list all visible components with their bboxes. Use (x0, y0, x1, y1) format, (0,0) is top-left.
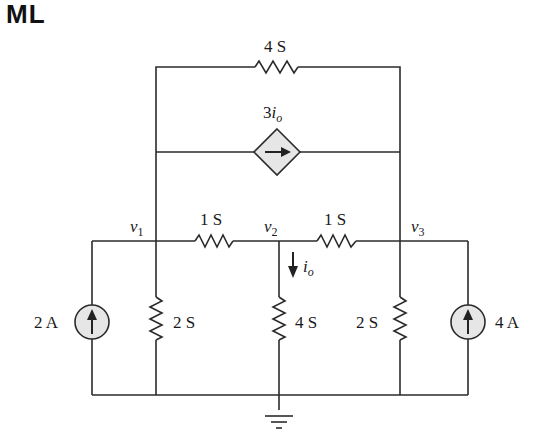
dependent-source-branch (156, 129, 400, 175)
circuit-diagram: 4 S 3io v1 v2 v3 1 S 1 S 2 S 4 S 2 S 2 A… (0, 0, 549, 437)
current-source-2a (75, 241, 109, 395)
arrow-down-icon (288, 266, 298, 278)
resistor-1s-left (195, 235, 233, 247)
shunt-resistor-4s (273, 241, 285, 410)
label-source-2a: 2 A (34, 313, 59, 332)
label-series-resistor-2: 1 S (324, 210, 346, 229)
label-current-io: io (303, 257, 314, 279)
label-node-v3: v3 (411, 217, 425, 239)
label-top-resistor: 4 S (264, 37, 286, 56)
label-source-4a: 4 A (495, 313, 520, 332)
label-dependent-source: 3io (263, 103, 282, 125)
resistor-4s-top (255, 61, 298, 73)
label-shunt-resistor-2: 4 S (295, 313, 317, 332)
shunt-resistor-2s-right (394, 241, 406, 395)
label-node-v2: v2 (264, 217, 278, 239)
ground (92, 395, 468, 428)
resistor-1s-right (317, 235, 356, 247)
current-source-4a (451, 241, 485, 395)
shunt-resistor-2s-left (150, 241, 162, 395)
node-wire (92, 235, 468, 247)
current-io-arrow (288, 252, 298, 278)
label-node-v1: v1 (130, 217, 144, 239)
label-series-resistor-1: 1 S (200, 210, 222, 229)
label-shunt-resistor-1: 2 S (173, 313, 195, 332)
label-shunt-resistor-3: 2 S (356, 313, 378, 332)
